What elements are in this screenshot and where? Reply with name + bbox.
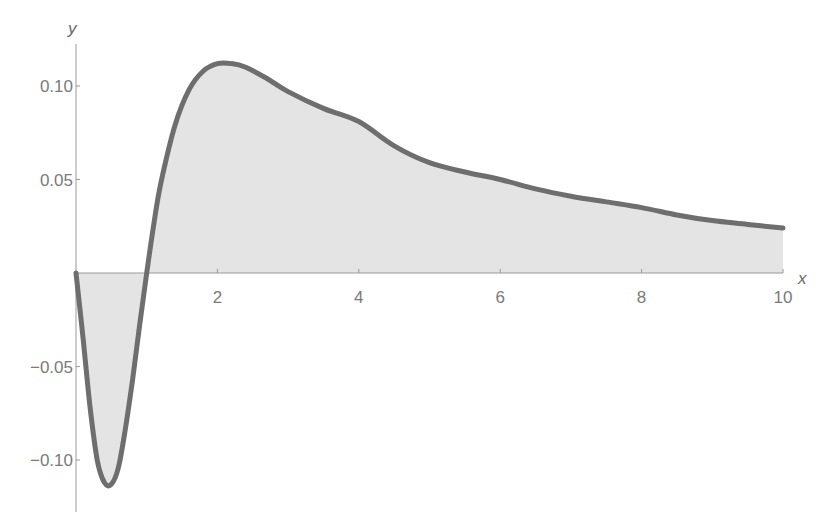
x-tick-label: 10 (774, 288, 793, 307)
y-tick-label: −0.10 (30, 451, 73, 470)
y-tick-label: 0.05 (40, 171, 73, 190)
x-tick-label: 8 (637, 288, 646, 307)
chart: 246810 −0.10−0.050.050.10 x y (0, 0, 829, 531)
x-axis-label: x (797, 269, 807, 288)
area-fill (76, 63, 783, 486)
x-tick-label: 4 (354, 288, 363, 307)
x-tick-label: 6 (495, 288, 504, 307)
y-tick-label: 0.10 (40, 77, 73, 96)
x-tick-label: 2 (213, 288, 222, 307)
y-axis-label: y (67, 19, 78, 38)
y-tick-label: −0.05 (30, 358, 73, 377)
x-ticks: 246810 (213, 269, 793, 307)
y-ticks: −0.10−0.050.050.10 (30, 77, 80, 470)
